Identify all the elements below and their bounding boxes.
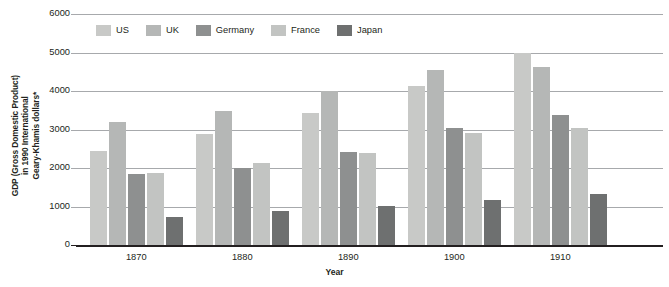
- x-axis-tick-label: 1900: [424, 252, 484, 262]
- legend-swatch-icon: [271, 25, 286, 36]
- bar-japan-1910: [590, 194, 607, 245]
- axis-baseline: [76, 245, 663, 247]
- bar-germany-1890: [340, 152, 357, 245]
- legend-swatch-icon: [337, 25, 352, 36]
- bar-japan-1880: [272, 211, 289, 245]
- legend-label: France: [291, 25, 320, 36]
- bar-us-1880: [196, 134, 213, 245]
- bar-us-1870: [90, 151, 107, 245]
- y-axis-tick-mark: [71, 207, 76, 208]
- bar-chart: GDP (Gross Domestic Product) in 1990 Int…: [0, 0, 669, 287]
- y-axis-tick-mark: [71, 130, 76, 131]
- bar-germany-1900: [446, 128, 463, 245]
- legend-label: Germany: [216, 25, 254, 36]
- legend-item-germany: Germany: [196, 25, 254, 36]
- x-axis-tick-label: 1870: [106, 252, 166, 262]
- x-axis-tick-label: 1880: [212, 252, 272, 262]
- bar-japan-1900: [484, 200, 501, 245]
- bar-germany-1870: [128, 174, 145, 245]
- legend-item-us: US: [96, 25, 129, 36]
- bar-france-1880: [253, 163, 270, 245]
- bar-france-1900: [465, 133, 482, 245]
- bar-france-1910: [571, 128, 588, 245]
- y-axis-tick-mark: [71, 53, 76, 54]
- legend: USUKGermanyFranceJapan: [96, 25, 399, 36]
- gridline: [76, 53, 663, 54]
- bar-japan-1890: [378, 206, 395, 245]
- y-axis-tick-label: 2000: [28, 163, 70, 172]
- y-axis-tick-mark: [71, 91, 76, 92]
- bar-uk-1890: [321, 91, 338, 245]
- y-axis-tick-label: 0: [28, 240, 70, 249]
- y-axis-tick-mark: [71, 245, 76, 246]
- gridline: [76, 14, 663, 15]
- bar-uk-1910: [533, 67, 550, 245]
- x-axis-title: Year: [0, 267, 669, 277]
- legend-label: Japan: [357, 25, 382, 36]
- gridline: [76, 91, 663, 92]
- legend-item-uk: UK: [146, 25, 179, 36]
- legend-item-japan: Japan: [337, 25, 382, 36]
- bar-germany-1880: [234, 168, 251, 245]
- y-axis-tick-label: 6000: [28, 9, 70, 18]
- bar-us-1910: [514, 53, 531, 245]
- y-axis-tick-label: 1000: [28, 202, 70, 211]
- legend-label: UK: [166, 25, 179, 36]
- x-axis-tick-label: 1890: [318, 252, 378, 262]
- legend-item-france: France: [271, 25, 320, 36]
- y-axis-tick-mark: [71, 14, 76, 15]
- bar-uk-1880: [215, 111, 232, 245]
- bar-us-1890: [302, 113, 319, 245]
- bar-france-1870: [147, 173, 164, 245]
- legend-swatch-icon: [196, 25, 211, 36]
- bar-france-1890: [359, 153, 376, 245]
- bar-us-1900: [408, 86, 425, 245]
- legend-swatch-icon: [146, 25, 161, 36]
- y-axis-tick-label: 3000: [28, 125, 70, 134]
- bar-japan-1870: [166, 217, 183, 245]
- y-axis-tick-label: 4000: [28, 86, 70, 95]
- y-axis-tick-label: 5000: [28, 48, 70, 57]
- legend-label: US: [116, 25, 129, 36]
- y-axis-tick-mark: [71, 168, 76, 169]
- legend-swatch-icon: [96, 25, 111, 36]
- bar-germany-1910: [552, 115, 569, 246]
- x-axis-tick-label: 1910: [530, 252, 590, 262]
- plot-area: [76, 14, 663, 245]
- bar-uk-1900: [427, 70, 444, 245]
- bar-uk-1870: [109, 122, 126, 245]
